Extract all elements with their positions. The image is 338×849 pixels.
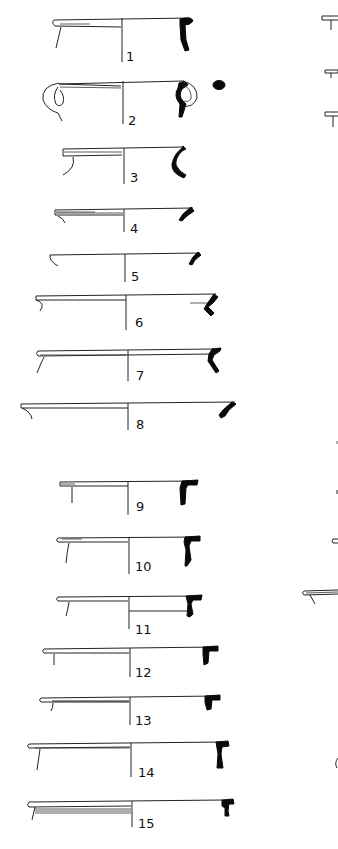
- profile-2: 2: [43, 81, 225, 129]
- rim-section-12: [203, 646, 218, 665]
- rim-section-8: [219, 402, 236, 418]
- profile-6: 6: [36, 294, 218, 330]
- profile-11: 11: [57, 595, 203, 637]
- rim-section-10: [184, 536, 200, 566]
- rim-section-15: [222, 799, 234, 816]
- profile-14: 14: [28, 741, 230, 780]
- label-3: 3: [130, 170, 138, 185]
- profile-4: 4: [55, 207, 194, 236]
- label-15: 15: [138, 816, 155, 831]
- label-6: 6: [135, 315, 143, 330]
- label-9: 9: [136, 499, 144, 514]
- profile-7: 7: [37, 348, 222, 383]
- fragment-loop: [332, 539, 338, 543]
- profile-9: 9: [60, 480, 198, 515]
- profile-5: 5: [50, 252, 201, 284]
- rim-section-3: [172, 146, 186, 178]
- label-14: 14: [138, 765, 155, 780]
- fragment-t-rim-2: [325, 70, 338, 78]
- label-2: 2: [128, 113, 136, 128]
- rim-section-5: [189, 252, 201, 265]
- profile-3: 3: [63, 146, 186, 185]
- rim-section-11: [186, 595, 202, 617]
- handle-left: [43, 83, 62, 121]
- rim-section-7: [208, 348, 221, 373]
- label-1: 1: [126, 49, 134, 64]
- rim-section-1: [180, 18, 193, 51]
- handle-section-oval: [213, 81, 225, 90]
- right-column-fragments: [303, 16, 338, 768]
- label-5: 5: [131, 269, 139, 284]
- rim-section-14: [216, 741, 229, 768]
- profile-1: 1: [53, 18, 193, 64]
- profile-12: 12: [43, 646, 219, 680]
- label-8: 8: [136, 417, 144, 432]
- label-4: 4: [130, 221, 138, 236]
- profile-10: 10: [57, 536, 201, 574]
- label-7: 7: [136, 368, 144, 383]
- rim-section-4: [179, 207, 194, 221]
- profile-8: 8: [21, 402, 236, 432]
- label-10: 10: [135, 559, 152, 574]
- rim-section-13: [205, 695, 220, 710]
- profile-15: 15: [28, 799, 235, 831]
- profile-13: 13: [40, 695, 221, 728]
- fragment-t-rim-1: [322, 16, 338, 30]
- fragment-t-rim-3: [325, 112, 338, 127]
- profile-plate: 1 2 3 4 5: [0, 0, 338, 849]
- label-11: 11: [135, 622, 152, 637]
- label-12: 12: [135, 665, 152, 680]
- label-13: 13: [135, 713, 152, 728]
- rim-section-9: [180, 480, 198, 505]
- rim-section-6: [204, 294, 218, 316]
